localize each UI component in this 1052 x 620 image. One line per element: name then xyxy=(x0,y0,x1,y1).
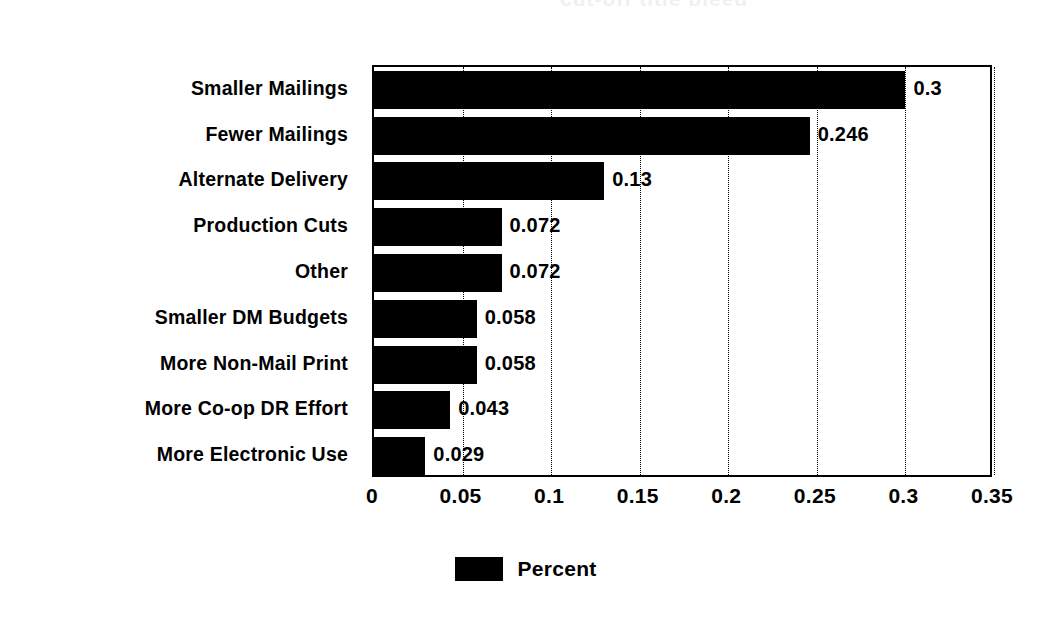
category-label: Fewer Mailings xyxy=(205,122,348,145)
x-tick-label: 0.15 xyxy=(617,484,659,508)
legend-label-percent: Percent xyxy=(517,557,596,581)
x-tick-label: 0.05 xyxy=(440,484,482,508)
bar-value-labels: 0.30.2460.130.0720.0720.0580.0580.0430.0… xyxy=(372,65,1032,477)
bar-value-label: 0.043 xyxy=(458,397,509,420)
bar-value-label: 0.058 xyxy=(485,305,536,328)
horizontal-bar-chart: Smaller MailingsFewer MailingsAlternate … xyxy=(0,0,1052,620)
bar-value-label: 0.029 xyxy=(433,443,484,466)
category-label: Smaller Mailings xyxy=(191,76,348,99)
category-label: More Co-op DR Effort xyxy=(145,397,348,420)
x-axis-tick-labels: 00.050.10.150.20.250.30.35 xyxy=(0,484,1052,518)
bar-value-label: 0.058 xyxy=(485,351,536,374)
category-label: Alternate Delivery xyxy=(179,168,348,191)
bar-value-label: 0.072 xyxy=(510,260,561,283)
category-label: Smaller DM Budgets xyxy=(155,305,348,328)
x-tick-label: 0.25 xyxy=(794,484,836,508)
category-label: Production Cuts xyxy=(193,214,348,237)
x-tick-label: 0.1 xyxy=(534,484,564,508)
category-label: Other xyxy=(295,260,348,283)
bar-value-label: 0.13 xyxy=(612,168,652,191)
bar-value-label: 0.246 xyxy=(818,122,869,145)
category-axis-labels: Smaller MailingsFewer MailingsAlternate … xyxy=(0,65,360,477)
chart-legend: Percent xyxy=(0,552,1052,586)
x-tick-label: 0.2 xyxy=(711,484,741,508)
category-label: More Non-Mail Print xyxy=(160,351,348,374)
bar-value-label: 0.3 xyxy=(913,76,941,99)
x-tick-label: 0.3 xyxy=(888,484,918,508)
x-tick-label: 0.35 xyxy=(971,484,1013,508)
category-label: More Electronic Use xyxy=(157,443,348,466)
bar-value-label: 0.072 xyxy=(510,214,561,237)
legend-swatch-percent xyxy=(455,557,503,581)
x-tick-label: 0 xyxy=(366,484,378,508)
